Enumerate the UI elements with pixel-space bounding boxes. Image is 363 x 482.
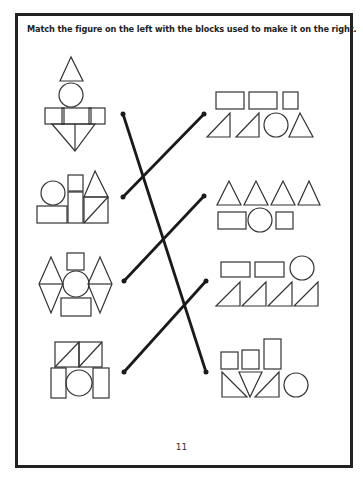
left-figure-4[interactable] <box>51 342 109 398</box>
right-blocks-3[interactable] <box>216 256 318 306</box>
left-figure-1[interactable] <box>45 57 105 151</box>
right-blocks-4[interactable] <box>221 339 308 397</box>
match-line-figure-1-to-blocks-4[interactable] <box>121 112 209 375</box>
right-blocks-2[interactable] <box>217 181 320 232</box>
left-figure-3[interactable] <box>39 253 112 316</box>
worksheet-artwork <box>0 0 363 482</box>
page-number: 11 <box>0 442 363 452</box>
right-blocks-1[interactable] <box>207 92 313 137</box>
match-line-figure-4-to-blocks-3[interactable] <box>122 279 209 375</box>
left-figure-2[interactable] <box>37 171 108 223</box>
match-line-figure-2-to-blocks-1[interactable] <box>121 112 207 200</box>
match-line-figure-3-to-blocks-2[interactable] <box>122 194 207 284</box>
